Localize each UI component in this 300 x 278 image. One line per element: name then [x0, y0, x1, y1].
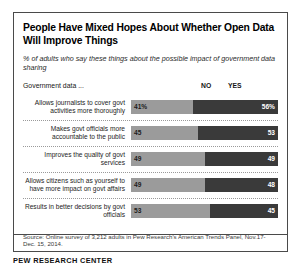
chart-figure: People Have Mixed Hopes About Whether Op…: [13, 12, 288, 252]
footer-divider: [14, 234, 287, 251]
table-row: Allows journalists to cover govt activit…: [23, 95, 278, 121]
column-header-row: Government data ... NO YES: [23, 82, 278, 93]
stacked-bar: 4948: [131, 178, 278, 192]
stacked-bar: 4949: [131, 152, 278, 166]
table-row: Results in better decisions by govt offi…: [23, 199, 278, 224]
row-label: Results in better decisions by govt offi…: [23, 203, 131, 220]
bar-segment-no: 53: [131, 204, 210, 218]
bar-segment-yes: 49: [205, 152, 279, 166]
chart-subtitle: % of adults who say these things about t…: [23, 54, 278, 72]
table-row: Improves the quality of govt services494…: [23, 147, 278, 173]
stacked-bar: 4553: [131, 126, 278, 140]
bar-segment-no: 41%: [131, 100, 193, 114]
bar-segment-no: 49: [131, 152, 205, 166]
bar-segment-no: 49: [131, 178, 205, 192]
row-label: Makes govt officials more accountable to…: [23, 125, 131, 142]
stacked-bar: 41%56%: [131, 100, 278, 114]
bar-segment-yes: 53: [198, 126, 277, 140]
row-label: Allows journalists to cover govt activit…: [23, 99, 131, 116]
stub-header: Government data ...: [23, 82, 84, 89]
bar-rows: Allows journalists to cover govt activit…: [23, 95, 278, 224]
bar-segment-yes: 45: [210, 204, 277, 218]
row-label: Allows citizens such as yourself to have…: [23, 177, 131, 194]
figure-inner: People Have Mixed Hopes About Whether Op…: [14, 13, 287, 248]
bar-segment-yes: 48: [205, 178, 278, 192]
legend-label-no: NO: [201, 82, 211, 89]
stacked-bar: 5345: [131, 204, 278, 218]
legend-label-yes: YES: [228, 82, 242, 89]
chart-title: People Have Mixed Hopes About Whether Op…: [23, 22, 278, 47]
bar-segment-yes: 56%: [193, 100, 278, 114]
pew-research-center-brand: PEW RESEARCH CENTER: [13, 256, 112, 265]
row-label: Improves the quality of govt services: [23, 151, 131, 168]
bar-segment-no: 45: [131, 126, 198, 140]
table-row: Allows citizens such as yourself to have…: [23, 173, 278, 199]
table-row: Makes govt officials more accountable to…: [23, 121, 278, 147]
